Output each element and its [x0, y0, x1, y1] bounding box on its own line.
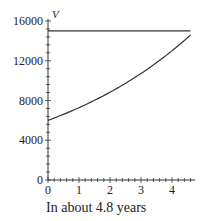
growth-curve — [48, 35, 191, 120]
caption: In about 4.8 years — [46, 200, 146, 216]
x-tick-label: 1 — [76, 183, 82, 197]
x-tick-label: 0 — [45, 183, 51, 197]
y-tick-label: 0 — [37, 173, 43, 187]
y-tick-label: 16000 — [13, 14, 43, 28]
chart: 012340400080001200016000V — [0, 0, 210, 221]
x-tick-label: 4 — [169, 183, 175, 197]
y-tick-label: 8000 — [19, 94, 43, 108]
x-tick-label: 3 — [138, 183, 144, 197]
y-axis-label: V — [52, 8, 60, 20]
x-tick-label: 2 — [107, 183, 113, 197]
y-tick-label: 12000 — [13, 54, 43, 68]
y-tick-label: 4000 — [19, 133, 43, 147]
